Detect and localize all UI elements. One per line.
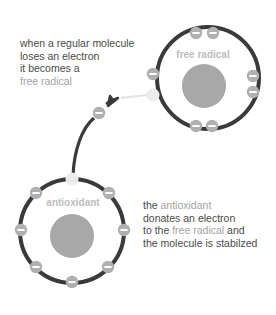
antioxidant-nucleus (50, 214, 94, 258)
arrow-trail (121, 95, 147, 98)
outro-highlight-antioxidant: antioxidant (161, 199, 212, 211)
free-radical-nucleus (182, 64, 226, 108)
intro-line-1: when a regular molecule (20, 37, 134, 50)
intro-line-2: loses an electron (20, 50, 134, 63)
transfer-arrow (73, 95, 147, 176)
outro-line-3: to the free radical and (143, 224, 257, 237)
arrow-path (73, 118, 94, 176)
intro-line-3: it becomes a (20, 62, 134, 75)
electron-icon (247, 70, 259, 82)
electron-icon (190, 27, 202, 39)
antioxidant-label: antioxidant (46, 197, 100, 208)
electron-icon (66, 276, 78, 288)
electron-icon (247, 86, 259, 98)
transferring-electron-icon (93, 107, 105, 119)
free-radical-atom: free radical (147, 27, 260, 132)
outro-highlight-free-radical: free radical (172, 224, 224, 236)
outro-line-2: donates an electron (143, 212, 257, 225)
empty-electron-slot (147, 89, 160, 102)
free-radical-label: free radical (176, 49, 230, 60)
arrow-head-icon (106, 96, 118, 106)
electron-icon (118, 224, 130, 236)
outro-line-3-suffix: and (224, 224, 244, 236)
electron-icon (102, 261, 114, 273)
outro-line-3-prefix: to the (143, 224, 172, 236)
electron-icon (30, 261, 42, 273)
donated-electron-slot (66, 173, 79, 186)
intro-caption: when a regular molecule loses an electro… (20, 37, 134, 87)
electron-icon (147, 68, 159, 80)
electron-icon (190, 120, 202, 132)
outro-line-4: the molecule is stabilzed (143, 237, 257, 250)
outro-line-1-prefix: the (143, 199, 161, 211)
electron-icon (207, 27, 219, 39)
electron-icon (206, 120, 218, 132)
antioxidant-atom: antioxidant (15, 173, 130, 289)
outro-caption: the antioxidant donates an electron to t… (143, 199, 257, 249)
electron-icon (30, 187, 42, 199)
outro-line-1: the antioxidant (143, 199, 257, 212)
electron-icon (103, 187, 115, 199)
electron-icon (15, 224, 27, 236)
intro-highlight-free-radical: free radical (20, 75, 134, 88)
